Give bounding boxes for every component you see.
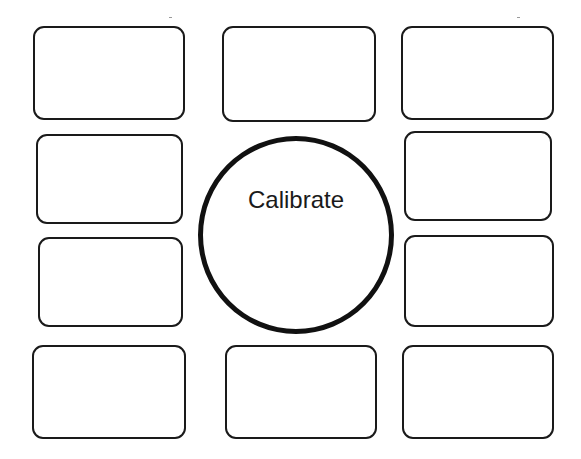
scan-speck bbox=[517, 17, 520, 18]
scan-speck bbox=[169, 17, 172, 18]
calibrate-circle: Calibrate bbox=[198, 136, 394, 334]
box-bottom-right bbox=[402, 345, 554, 439]
box-top-right bbox=[401, 26, 554, 120]
box-top-left bbox=[33, 26, 185, 120]
box-middle-lower-left bbox=[38, 237, 183, 327]
box-middle-upper-right bbox=[404, 131, 552, 221]
box-middle-lower-right bbox=[404, 235, 554, 327]
box-bottom-center bbox=[225, 345, 377, 439]
box-middle-upper-left bbox=[36, 134, 183, 224]
box-top-center bbox=[222, 26, 376, 122]
calibrate-label: Calibrate bbox=[203, 186, 389, 214]
diagram-canvas: Calibrate bbox=[0, 0, 581, 459]
box-bottom-left bbox=[32, 345, 186, 439]
